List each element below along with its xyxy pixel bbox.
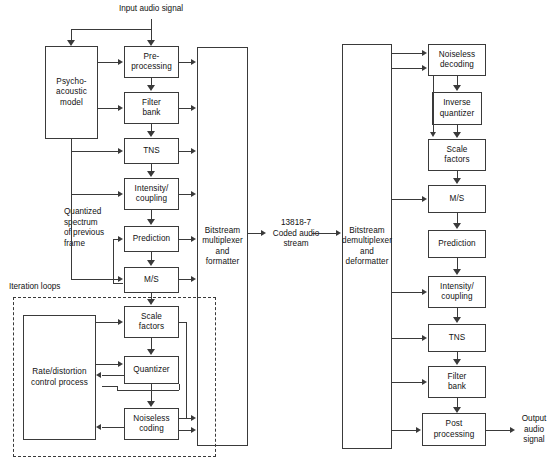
scalefactors-to-quantizer-arrow: [147, 349, 155, 355]
psychoacoustic-model-box[interactable]: Psycho- acoustic model: [45, 46, 98, 139]
rd-to-scalefactors-line: [96, 322, 118, 323]
quantized-spectrum-label: Quantized spectrum of previous frame: [64, 207, 124, 249]
noiseless-to-mux-line-bottom: [179, 430, 191, 431]
quantized-spectrum-feedback-line: [113, 239, 114, 284]
ms-to-scalefactors-arrow: [147, 299, 155, 305]
filter-to-mux-line: [179, 108, 191, 109]
rd-to-quantizer-line: [96, 364, 118, 365]
psy-to-filter-line: [98, 108, 118, 109]
prediction-box[interactable]: Prediction: [124, 226, 179, 252]
intensity-to-mux-line: [179, 194, 191, 195]
prediction-to-mux-arrow: [191, 236, 196, 242]
input-audio-signal-label: Input audio signal: [86, 4, 216, 15]
decoder-ms-box[interactable]: M/S: [428, 185, 486, 213]
tns-to-mux-arrow: [191, 148, 196, 154]
filter-bank-box[interactable]: Filter bank: [124, 92, 179, 124]
psy-to-tns-arrow: [118, 148, 123, 154]
coded-stream-to-demux-arrow: [336, 230, 341, 236]
psy-to-intensity-arrow: [118, 191, 123, 197]
psy-to-pre-arrow: [118, 59, 123, 65]
quantizer-wrap-hline: [117, 390, 179, 391]
tns-box[interactable]: TNS: [124, 138, 179, 164]
demux-to-noiseless-arrow-1: [422, 50, 427, 56]
demux-to-tns-line: [392, 338, 422, 339]
decoder-scale-factors-box[interactable]: Scale factors: [428, 139, 486, 171]
pre-to-mux-line: [179, 62, 191, 63]
mux-out-line: [248, 233, 261, 234]
scalefactors-to-ms-line: [457, 171, 458, 178]
decoder-prediction-to-intensity-line: [457, 258, 458, 269]
noiselessdec-sideband-arrow: [430, 132, 436, 137]
decoder-tns-to-filterbank-line: [457, 352, 458, 359]
pre-processing-box[interactable]: Pre- processing: [124, 46, 179, 78]
inverse-quantizer-box[interactable]: Inverse quantizer: [432, 92, 482, 125]
noiselessdec-to-invq-line: [457, 76, 458, 85]
decoder-intensity-coupling-box[interactable]: Intensity/ coupling: [428, 276, 486, 308]
scalefactors-to-ms-arrow: [453, 178, 461, 184]
rd-to-scalefactors-arrow: [118, 319, 123, 325]
decoder-filterbank-to-post-line: [457, 398, 458, 407]
demux-to-intensity-line: [392, 292, 422, 293]
noiselessdec-to-invq-arrow: [453, 85, 461, 91]
invq-to-scalefactors-line: [457, 125, 458, 132]
noiseless-to-mux-arrow-bottom: [191, 427, 196, 433]
tns-to-mux-line: [179, 151, 191, 152]
decoder-intensity-to-tns-line: [457, 308, 458, 317]
decoder-tns-box[interactable]: TNS: [428, 324, 486, 352]
prediction-to-ms-arrow: [147, 260, 155, 266]
demux-to-noiseless-line-1: [392, 53, 422, 54]
post-to-output-line: [486, 430, 510, 431]
demux-to-post-line: [392, 430, 416, 431]
quantized-spectrum-tap-line: [113, 283, 123, 284]
psy-to-intensity-line: [71, 194, 118, 195]
block-diagram-canvas: Input audio signal Psycho- acoustic mode…: [0, 0, 557, 469]
bitstream-demultiplexer-box[interactable]: Bitstream demultiplexer and deformatter: [342, 44, 392, 449]
quantizer-wrap-riser: [179, 384, 180, 390]
intensity-to-prediction-arrow: [147, 219, 155, 225]
demux-to-filterbank-line: [392, 382, 422, 383]
demux-to-ms-arrow: [422, 196, 427, 202]
psy-to-tns-line: [71, 151, 118, 152]
pre-to-filter-arrow: [147, 85, 155, 91]
post-processing-box[interactable]: Post processing: [422, 413, 486, 446]
demux-to-intensity-arrow: [422, 289, 427, 295]
demux-to-tns-arrow: [422, 335, 427, 341]
psy-to-ms-arrow: [118, 276, 123, 282]
scalefactors-sideband-line: [186, 322, 187, 418]
quantizer-wrap-return: [102, 386, 118, 387]
decoder-prediction-to-intensity-arrow: [453, 269, 461, 275]
noiseless-decoding-box[interactable]: Noiseless decoding: [428, 44, 486, 76]
intensity-to-mux-arrow: [191, 191, 196, 197]
quantizer-to-noiseless-line: [151, 384, 152, 401]
decoder-filter-bank-box[interactable]: Filter bank: [428, 366, 486, 398]
output-audio-signal-label: Output audio signal: [512, 414, 556, 446]
filter-to-tns-arrow: [147, 131, 155, 137]
quantized-spectrum-to-prediction-arrow: [118, 236, 123, 242]
intensity-coupling-box[interactable]: Intensity/ coupling: [124, 178, 179, 210]
prediction-to-mux-line: [179, 239, 191, 240]
prediction-to-ms-line: [151, 252, 152, 260]
noiselessdec-sideband-line: [433, 76, 434, 132]
decoder-prediction-box[interactable]: Prediction: [428, 230, 486, 258]
demux-to-post-arrow: [416, 427, 421, 433]
scalefactors-sideband-tap: [179, 322, 187, 323]
quantizer-to-rd-line: [102, 375, 124, 376]
decoder-intensity-to-tns-arrow: [453, 317, 461, 323]
psy-to-ms-line: [71, 279, 118, 280]
noiseless-to-mux-arrow-top: [191, 415, 196, 421]
decoder-tns-to-filterbank-arrow: [453, 359, 461, 365]
noiseless-to-rd-arrow: [96, 424, 101, 430]
decoder-ms-to-prediction-line: [457, 213, 458, 223]
ms-to-mux-line: [179, 279, 191, 280]
demux-to-noiseless-line-2: [392, 68, 422, 69]
tns-to-intensity-arrow: [147, 171, 155, 177]
psy-bottom-trunk: [71, 139, 72, 279]
quantizer-to-noiseless-arrow: [147, 401, 155, 407]
psy-to-filter-arrow: [118, 105, 123, 111]
decoder-ms-to-prediction-arrow: [453, 223, 461, 229]
quantizer-to-rd-arrow: [96, 372, 101, 378]
demux-to-filterbank-arrow: [422, 379, 427, 385]
filter-to-mux-arrow: [191, 105, 196, 111]
noiseless-to-rd-line: [102, 427, 124, 428]
ms-box[interactable]: M/S: [124, 267, 179, 293]
